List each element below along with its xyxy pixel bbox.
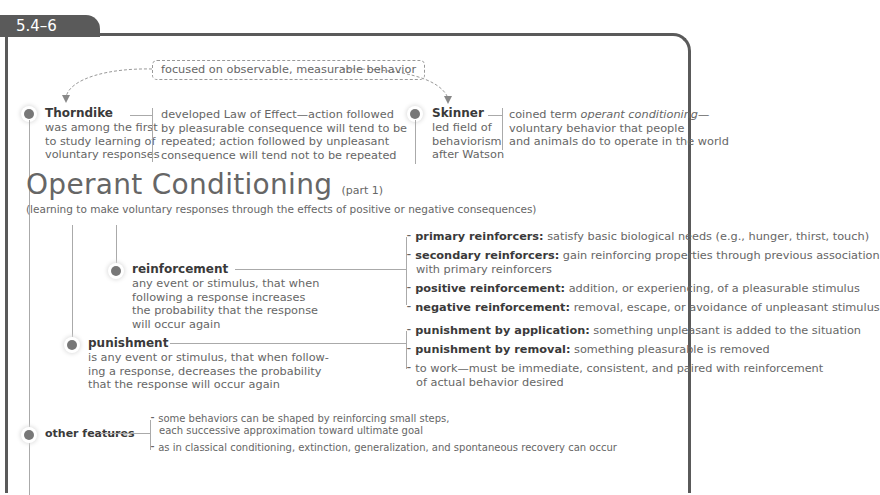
text-line: and animals do to operate in the world: [509, 135, 729, 149]
text-line: is any event or stimulus, that when foll…: [88, 351, 329, 365]
title-main: Operant Conditioning: [26, 168, 332, 201]
reinforcement-desc: any event or stimulus, that when followi…: [132, 277, 319, 331]
connector: [415, 120, 416, 164]
page-title: Operant Conditioning (part 1): [26, 168, 383, 201]
term: punishment by application:: [415, 324, 589, 337]
top-note: focused on observable, measurable behavi…: [161, 63, 416, 76]
text-line: consequence will tend not to be repeated: [161, 149, 407, 163]
text: some behaviors can be shaped by reinforc…: [158, 413, 449, 424]
text: something unpleasant is added to the sit…: [590, 324, 861, 337]
term: positive reinforcement:: [415, 282, 565, 295]
top-note-box: focused on observable, measurable behavi…: [152, 60, 425, 80]
connector: [116, 225, 117, 267]
text: as in classical conditioning, extinction…: [158, 442, 617, 453]
text: —: [698, 108, 709, 121]
list-item: ⁃ some behaviors can be shaped by reinfo…: [150, 413, 617, 425]
text-line: that the response will occur again: [88, 378, 329, 392]
text-line: of actual behavior desired: [406, 376, 861, 390]
title-part: (part 1): [341, 184, 383, 197]
other-features-items: ⁃ some behaviors can be shaped by reinfo…: [150, 413, 617, 454]
thorndike-bullet-icon: [24, 109, 34, 119]
text-line: by pleasurable consequence will tend to …: [161, 122, 407, 136]
list-item: ⁃ negative reinforcement: removal, escap…: [406, 301, 880, 315]
connector: [488, 115, 502, 116]
text-line: will occur again: [132, 318, 319, 332]
skinner-bullet-icon: [410, 109, 420, 119]
text-line: each successive approximation toward ult…: [150, 425, 617, 442]
skinner-name: Skinner: [432, 107, 484, 121]
list-item: ⁃ secondary reinforcers: gain reinforcin…: [406, 249, 880, 263]
skinner-detail: coined term operant conditioning— volunt…: [502, 108, 729, 150]
text-line: led field of: [432, 121, 504, 135]
text-line: voluntary behavior that people: [509, 122, 729, 136]
term: negative reinforcement:: [415, 301, 570, 314]
list-item: ⁃ as in classical conditioning, extincti…: [150, 442, 617, 454]
term: operant conditioning: [581, 108, 698, 121]
term: punishment by removal:: [415, 343, 570, 356]
text-line: repeated; action followed by unpleasant: [161, 135, 407, 149]
text: gain reinforcing properties through prev…: [559, 249, 879, 262]
text-line: the probability that the response: [132, 304, 319, 318]
text-line: following a response increases: [132, 291, 319, 305]
term: primary reinforcers:: [415, 230, 543, 243]
reinforcement-bullet-icon: [111, 266, 121, 276]
other-features-bullet-icon: [24, 430, 34, 440]
punishment-items: ⁃ punishment by application: something u…: [406, 324, 861, 389]
text-line: voluntary responses: [45, 148, 160, 162]
reinforcement-name: reinforcement: [132, 263, 228, 277]
thorndike-detail: developed Law of Effect—action followed …: [152, 108, 407, 162]
text-line: developed Law of Effect—action followed: [161, 108, 407, 122]
connector: [130, 115, 152, 116]
page-subtitle: (learning to make voluntary responses th…: [26, 203, 536, 217]
text-line: with primary reinforcers: [406, 263, 880, 282]
text-line: to study learning of: [45, 135, 160, 149]
punishment-bullet-icon: [67, 340, 77, 350]
list-item: ⁃ primary reinforcers: satisfy basic bio…: [406, 230, 880, 249]
reinforcement-items: ⁃ primary reinforcers: satisfy basic bio…: [406, 230, 880, 314]
text-line: after Watson: [432, 148, 504, 162]
thorndike-name: Thorndike: [45, 107, 113, 121]
text: to work—must be immediate, consistent, a…: [415, 362, 823, 375]
text-line: ing a response, decreases the probabilit…: [88, 365, 329, 379]
list-item: ⁃ positive reinforcement: addition, or e…: [406, 282, 880, 301]
text: satisfy basic biological needs (e.g., hu…: [544, 230, 869, 243]
list-item: ⁃ punishment by removal: something pleas…: [406, 343, 861, 362]
list-item: ⁃ to work—must be immediate, consistent,…: [406, 362, 861, 376]
text: coined term: [509, 108, 581, 121]
text-line: was among the first: [45, 121, 160, 135]
skinner-desc: led field of behaviorism after Watson: [432, 121, 504, 162]
text-line: any event or stimulus, that when: [132, 277, 319, 291]
thorndike-desc: was among the first to study learning of…: [45, 121, 160, 162]
connector: [235, 269, 406, 270]
text: something pleasurable is removed: [570, 343, 769, 356]
punishment-name: punishment: [88, 337, 168, 351]
text: removal, escape, or avoidance of unpleas…: [570, 301, 880, 314]
connector: [100, 433, 150, 434]
connector: [170, 343, 406, 344]
text: addition, or experiencing, of a pleasura…: [565, 282, 860, 295]
term: secondary reinforcers:: [415, 249, 559, 262]
punishment-desc: is any event or stimulus, that when foll…: [88, 351, 329, 392]
connector: [72, 225, 73, 340]
list-item: ⁃ punishment by application: something u…: [406, 324, 861, 343]
text-line: behaviorism: [432, 135, 504, 149]
